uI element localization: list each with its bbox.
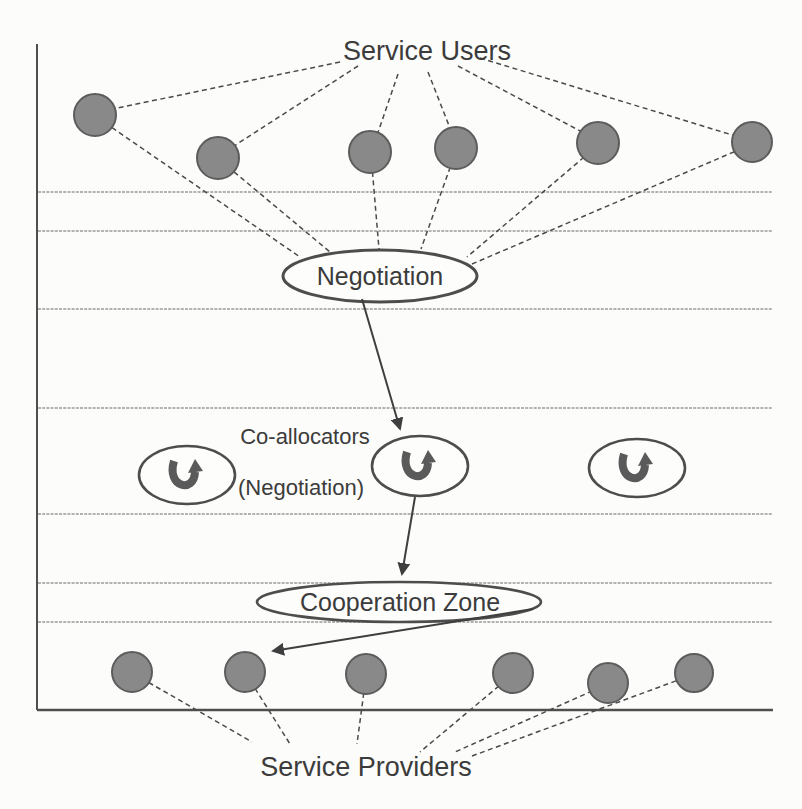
user-to-negotiation-link: [472, 145, 750, 264]
coallocation-diagram: Service Users Negotiation Co-allocators …: [0, 0, 802, 809]
service-provider-node: [493, 653, 533, 693]
service-user-nodes: [74, 94, 772, 179]
service-provider-nodes: [112, 652, 713, 703]
co-allocator-ellipse-left: [139, 446, 235, 504]
label-to-user-link: [220, 66, 358, 155]
service-users-label: Service Users: [343, 36, 511, 66]
service-user-node: [435, 127, 477, 169]
service-user-node: [74, 94, 116, 136]
co-allocator-ellipse-center: [372, 436, 468, 496]
label-to-user-link: [458, 66, 599, 141]
service-provider-node: [675, 654, 713, 692]
user-to-negotiation-link: [98, 118, 300, 257]
coallocator-to-cooperation-arrow: [402, 497, 415, 574]
user-to-negotiation-link: [467, 146, 597, 257]
service-provider-node: [112, 652, 152, 692]
service-user-node: [349, 131, 391, 173]
service-providers-label: Service Providers: [260, 752, 472, 782]
scanned-figure-page: Service Users Negotiation Co-allocators …: [0, 0, 802, 809]
user-to-negotiation-link: [221, 161, 330, 252]
service-user-node: [577, 122, 619, 164]
cooperation-zone-label: Cooperation Zone: [300, 588, 500, 616]
co-allocators-label: Co-allocators: [240, 424, 370, 449]
negotiation-label: Negotiation: [317, 262, 443, 290]
service-user-node: [197, 137, 239, 179]
co-allocator-ellipse-right: [589, 439, 685, 497]
service-provider-node: [346, 654, 386, 694]
service-user-node: [732, 122, 772, 162]
user-negotiation-links: [98, 118, 750, 264]
co-allocators-sublabel: (Negotiation): [238, 475, 364, 500]
negotiation-to-coallocator-arrow: [362, 299, 400, 429]
service-users-links: [98, 58, 752, 155]
service-provider-node: [225, 652, 265, 692]
label-to-user-link: [98, 62, 340, 112]
service-provider-node: [588, 663, 628, 703]
provider-to-label-link: [455, 684, 608, 752]
